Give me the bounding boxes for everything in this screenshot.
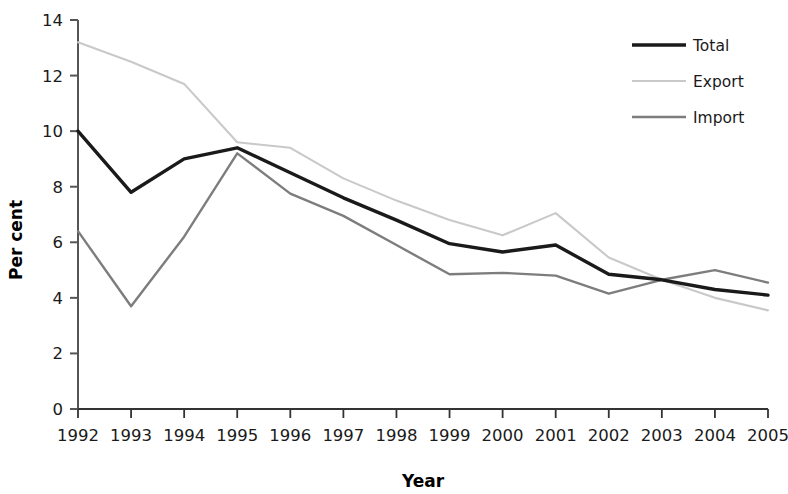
y-tick-label: 4 [53, 289, 64, 308]
y-axis-group: 02468101214 [42, 11, 78, 419]
chart-legend: TotalExportImport [632, 37, 744, 127]
x-axis-group: 1992199319941995199619971998199920002001… [57, 409, 788, 445]
y-tick-label: 0 [53, 400, 64, 419]
y-tick-label: 6 [53, 233, 64, 252]
series-line-total [78, 131, 768, 295]
x-tick-label: 2000 [482, 426, 524, 445]
x-axis-ticks [78, 409, 768, 418]
y-axis-title: Per cent [6, 200, 26, 280]
y-axis-tick-labels: 02468101214 [42, 11, 63, 419]
series-lines-group [78, 42, 768, 310]
x-tick-label: 2002 [588, 426, 630, 445]
y-tick-label: 10 [42, 122, 63, 141]
x-tick-label: 1996 [269, 426, 311, 445]
series-line-import [78, 153, 768, 306]
chart-canvas: 02468101214 1992199319941995199619971998… [0, 0, 788, 494]
line-chart: 02468101214 1992199319941995199619971998… [0, 0, 788, 494]
x-tick-label: 1999 [429, 426, 471, 445]
x-tick-label: 2005 [747, 426, 788, 445]
x-tick-label: 2003 [641, 426, 683, 445]
x-tick-label: 2001 [535, 426, 577, 445]
x-tick-label: 1997 [322, 426, 364, 445]
series-line-export [78, 42, 768, 310]
legend-label-export: Export [693, 73, 744, 91]
x-axis-tick-labels: 1992199319941995199619971998199920002001… [57, 426, 788, 445]
x-tick-label: 1995 [216, 426, 258, 445]
x-tick-label: 1993 [110, 426, 152, 445]
y-tick-label: 2 [53, 344, 64, 363]
legend-label-total: Total [692, 37, 729, 55]
x-tick-label: 1998 [375, 426, 417, 445]
y-axis-ticks [70, 20, 78, 409]
x-tick-label: 1994 [163, 426, 205, 445]
y-tick-label: 14 [42, 11, 63, 30]
x-axis-title: Year [401, 471, 445, 491]
legend-label-import: Import [693, 109, 744, 127]
y-tick-label: 12 [42, 67, 63, 86]
x-tick-label: 2004 [694, 426, 736, 445]
x-tick-label: 1992 [57, 426, 99, 445]
y-tick-label: 8 [53, 178, 64, 197]
